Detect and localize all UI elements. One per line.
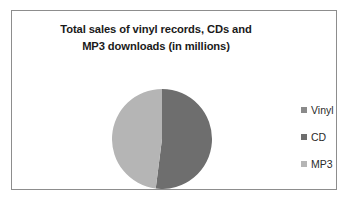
legend-item-cd: CD: [301, 130, 350, 144]
legend-swatch-mp3: [301, 161, 307, 167]
legend-item-vinyl: Vinyl: [301, 103, 350, 117]
pie-plot-area: [112, 89, 212, 189]
legend-label-mp3: MP3: [311, 158, 333, 170]
pie-chart-figure: Total sales of vinyl records, CDs and MP…: [0, 0, 350, 205]
pie-slice-mp3: [112, 89, 162, 189]
chart-title-line-2: MP3 downloads (in millions): [30, 38, 282, 55]
chart-title: Total sales of vinyl records, CDs and MP…: [30, 21, 282, 55]
chart-title-line-1: Total sales of vinyl records, CDs and: [30, 21, 282, 38]
legend-swatch-vinyl: [301, 107, 307, 113]
legend-label-vinyl: Vinyl: [311, 104, 334, 116]
chart-frame-border: Total sales of vinyl records, CDs and MP…: [11, 10, 337, 190]
legend-item-mp3: MP3: [301, 157, 350, 171]
pie-svg: [112, 89, 212, 189]
legend-swatch-cd: [301, 134, 307, 140]
pie-slice-cd: [156, 89, 212, 189]
chart-legend: Vinyl CD MP3: [301, 103, 350, 184]
legend-label-cd: CD: [311, 131, 326, 143]
